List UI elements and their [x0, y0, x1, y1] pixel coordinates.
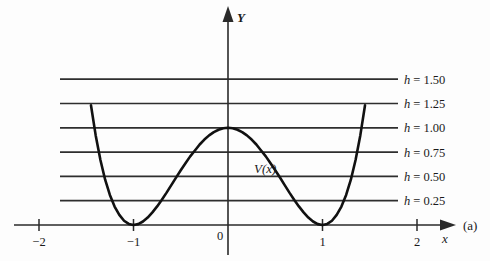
- x-axis-tick-label: 2: [414, 235, 420, 249]
- x-axis-origin-label: 0: [217, 229, 223, 243]
- level-line-label: h= 0.50: [404, 170, 445, 184]
- x-axis-arrow-icon: [440, 220, 456, 231]
- curve-label: V(x): [254, 161, 276, 176]
- y-axis-arrow-icon: [223, 6, 234, 22]
- y-axis-label: Y: [237, 10, 246, 25]
- level-line-labels-group: h= 1.50h= 1.25h= 1.00h= 0.75h= 0.50h= 0.…: [404, 73, 445, 209]
- panel-label: (a): [463, 218, 477, 233]
- potential-well-figure: −2−1120 h= 1.50h= 1.25h= 1.00h= 0.75h= 0…: [0, 0, 490, 261]
- x-axis-tick-label: −1: [127, 235, 140, 249]
- axes-group: [14, 6, 456, 255]
- level-line-label: h= 1.25: [404, 97, 445, 111]
- level-line-label: h= 0.75: [404, 146, 445, 160]
- level-line-label: h= 1.00: [404, 121, 445, 135]
- x-axis-tick-label: 1: [319, 235, 325, 249]
- level-line-label: h= 0.25: [404, 194, 445, 208]
- level-lines-group: [60, 79, 398, 201]
- x-axis-tick-labels-group: −2−1120: [32, 229, 420, 249]
- x-axis-label: x: [441, 231, 448, 246]
- level-line-label: h= 1.50: [404, 73, 445, 87]
- plot-canvas: −2−1120 h= 1.50h= 1.25h= 1.00h= 0.75h= 0…: [0, 0, 490, 261]
- x-axis-tick-label: −2: [32, 235, 45, 249]
